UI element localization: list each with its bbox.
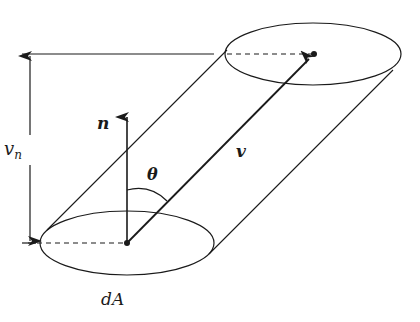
cylinder-side-left <box>47 50 227 230</box>
normal-component-sub: n <box>14 148 22 162</box>
normal-label: n <box>97 113 109 133</box>
area-label: dA <box>101 289 124 309</box>
velocity-vector-arrow <box>127 59 309 243</box>
velocity-label: v <box>236 141 247 161</box>
top-center-dot <box>311 51 317 57</box>
flux-diagram: n v θ vn dA <box>0 0 420 322</box>
angle-label: θ <box>147 165 158 184</box>
angle-arc <box>127 188 167 201</box>
normal-component-main: v <box>4 138 14 159</box>
bottom-center-dot <box>124 240 130 246</box>
cylinder-side-right <box>209 70 393 254</box>
normal-component-label: vn <box>4 138 22 162</box>
